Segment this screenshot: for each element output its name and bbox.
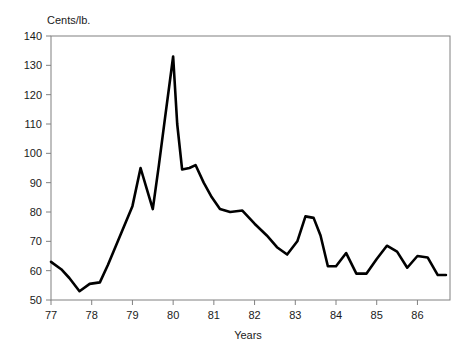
x-tick-label: 77 [45,309,57,321]
chart-background [0,0,470,349]
x-axis-title: Years [234,329,262,341]
y-tick-label: 50 [30,294,42,306]
x-tick-label: 82 [248,309,260,321]
chart-figure: 5060708090100110120130140 77787980818283… [0,0,470,349]
y-tick-label: 110 [24,118,42,130]
y-tick-label: 130 [24,59,42,71]
y-tick-label: 140 [24,30,42,42]
y-tick-label: 60 [30,265,42,277]
x-tick-label: 83 [289,309,301,321]
y-tick-label: 120 [24,89,42,101]
line-chart: 5060708090100110120130140 77787980818283… [0,0,470,349]
x-tick-label: 78 [86,309,98,321]
y-tick-label: 90 [30,177,42,189]
y-axis-title: Cents/lb. [47,14,90,26]
x-tick-label: 79 [126,309,138,321]
x-tick-label: 85 [371,309,383,321]
y-tick-label: 70 [30,235,42,247]
x-tick-label: 84 [330,309,342,321]
x-tick-label: 86 [411,309,423,321]
x-tick-label: 80 [167,309,179,321]
y-tick-label: 80 [30,206,42,218]
y-tick-label: 100 [24,147,42,159]
x-tick-label: 81 [208,309,220,321]
